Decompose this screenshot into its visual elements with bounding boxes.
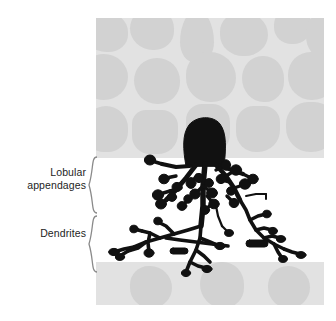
primary-trunk-far-left bbox=[162, 164, 190, 167]
soma bbox=[184, 118, 226, 166]
brace-dendrites bbox=[86, 215, 100, 273]
primary-trunk-center bbox=[201, 164, 205, 226]
brace-lobular bbox=[86, 156, 100, 214]
label-lobular-appendages: Lobular appendages bbox=[6, 166, 86, 191]
label-dendrites: Dendrites bbox=[6, 227, 86, 240]
figure-canvas: Lobular appendages Dendrites bbox=[0, 0, 336, 321]
neuron-tracing bbox=[0, 0, 336, 321]
